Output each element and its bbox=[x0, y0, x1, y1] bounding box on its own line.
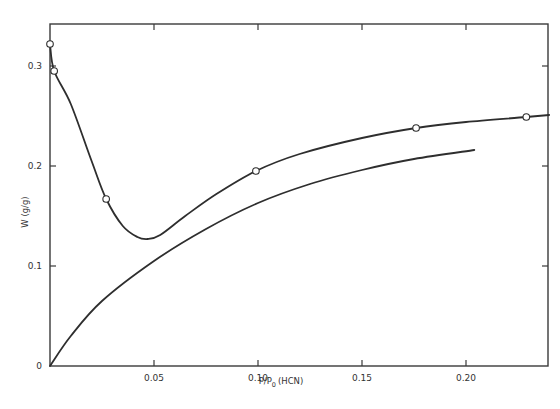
open-circle-marker bbox=[523, 114, 530, 121]
data-curves bbox=[50, 44, 549, 366]
open-circle-marker bbox=[103, 196, 110, 203]
data-markers bbox=[47, 41, 530, 203]
y-tick-label: 0.3 bbox=[28, 61, 42, 71]
open-circle-marker bbox=[253, 168, 260, 175]
y-axis-ticks: 00.10.20.3 bbox=[28, 61, 548, 371]
adsorption-chart: 0.050.100.150.20 00.10.20.3 P/P0(HCN) W … bbox=[0, 0, 560, 409]
x-tick-label: 0.15 bbox=[352, 373, 372, 383]
x-tick-label: 0.05 bbox=[144, 373, 164, 383]
x-tick-label: 0.20 bbox=[456, 373, 476, 383]
open-circle-marker bbox=[47, 41, 54, 48]
y-tick-label: 0.1 bbox=[28, 261, 42, 271]
open-circle-marker bbox=[51, 68, 58, 75]
upper-curve bbox=[50, 44, 549, 239]
x-axis-ticks: 0.050.100.150.20 bbox=[144, 24, 476, 383]
y-tick-label: 0 bbox=[36, 361, 42, 371]
open-circle-marker bbox=[413, 125, 420, 132]
lower-curve bbox=[50, 150, 474, 366]
x-axis-title: P/P0(HCN) bbox=[259, 376, 304, 389]
y-tick-label: 0.2 bbox=[28, 161, 42, 171]
plot-frame bbox=[50, 24, 548, 366]
plot-border bbox=[50, 24, 548, 366]
y-axis-title: W (g/g) bbox=[20, 196, 30, 227]
